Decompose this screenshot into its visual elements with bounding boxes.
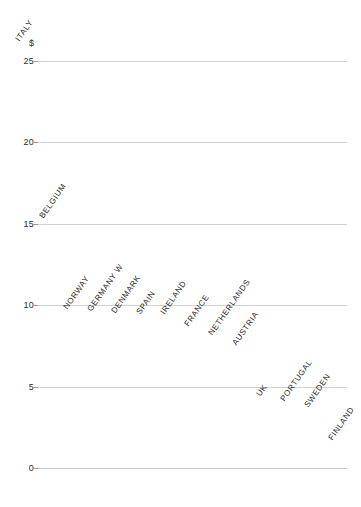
gridline <box>38 61 347 62</box>
gridline <box>38 224 347 225</box>
y-axis-tick-label: 15 <box>4 219 34 229</box>
category-label: SWEDEN <box>303 372 333 409</box>
y-axis-tick-mark <box>34 305 38 306</box>
y-axis-tick-label: 10 <box>4 300 34 310</box>
gridline <box>38 468 347 469</box>
category-label: IRELAND <box>158 279 188 316</box>
y-axis-tick: 20 <box>0 142 34 143</box>
category-label: AUSTRIA <box>231 310 261 347</box>
y-axis-tick-mark <box>34 224 38 225</box>
y-axis-tick-label: 25 <box>4 56 34 66</box>
y-axis-tick-mark <box>34 142 38 143</box>
gridline <box>38 142 347 143</box>
gridline <box>38 305 347 306</box>
y-axis-tick: 0 <box>0 468 34 469</box>
y-axis-tick: 15 <box>0 224 34 225</box>
y-axis-tick-label: 20 <box>4 137 34 147</box>
y-axis-tick: 25 <box>0 61 34 62</box>
category-label: FRANCE <box>182 293 210 328</box>
category-label: UK <box>255 382 269 397</box>
bar-chart: 0510152025 $ ITALYBELGIUMNORWAYGERMANY W… <box>0 0 361 507</box>
category-label: FINLAND <box>327 405 356 442</box>
y-axis-tick-label: 5 <box>4 382 34 392</box>
category-label: BELGIUM <box>38 182 68 220</box>
y-axis-tick-label: 0 <box>4 463 34 473</box>
gridline <box>38 387 347 388</box>
y-axis-tick-mark <box>34 61 38 62</box>
y-axis-tick: 10 <box>0 305 34 306</box>
y-axis-tick: 5 <box>0 387 34 388</box>
y-axis-tick-mark <box>34 387 38 388</box>
y-axis-tick-mark <box>34 468 38 469</box>
category-label: SPAIN <box>134 289 157 316</box>
